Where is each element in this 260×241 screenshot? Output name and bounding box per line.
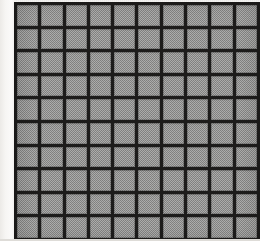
grid-cell	[236, 123, 257, 144]
grid-cell	[17, 52, 38, 73]
grid-cell	[236, 170, 257, 191]
grid-cell	[236, 194, 257, 215]
grid-cell	[114, 123, 135, 144]
grid-cell	[41, 5, 62, 26]
grid-cell	[17, 147, 38, 168]
grid-cell	[138, 29, 159, 50]
grid-cell	[138, 147, 159, 168]
grid-cell	[66, 5, 87, 26]
grid-cell	[66, 99, 87, 120]
grid-cell	[187, 29, 208, 50]
grid-cell	[211, 170, 232, 191]
grid-cell	[90, 147, 111, 168]
grid-cell	[90, 76, 111, 97]
grid-cell	[90, 99, 111, 120]
grid-cell	[41, 52, 62, 73]
grid-cell	[187, 99, 208, 120]
grid-cell	[114, 194, 135, 215]
grid-plate	[14, 2, 260, 241]
grid-cell	[236, 5, 257, 26]
grid-cell	[187, 147, 208, 168]
grid-cell	[163, 147, 184, 168]
grid-cell	[163, 5, 184, 26]
grid-cell	[66, 217, 87, 238]
grid-cell	[138, 5, 159, 26]
grid-cell	[187, 194, 208, 215]
grid-cell	[138, 52, 159, 73]
grid-cell	[66, 29, 87, 50]
grid-cell	[114, 170, 135, 191]
grid-cell	[41, 99, 62, 120]
scanned-grid-figure: Halftone grid pattern	[0, 0, 260, 241]
grid-cell	[211, 147, 232, 168]
grid-cell	[236, 52, 257, 73]
grid-cell	[138, 194, 159, 215]
grid-cell	[138, 123, 159, 144]
grid-cell	[138, 99, 159, 120]
grid-cell	[211, 123, 232, 144]
grid-cell	[163, 194, 184, 215]
grid-cell	[17, 123, 38, 144]
grid-cell	[41, 170, 62, 191]
page-left-margin	[0, 0, 15, 241]
grid-cell	[17, 29, 38, 50]
grid-cell	[163, 52, 184, 73]
grid-cell	[90, 29, 111, 50]
grid-cell	[17, 194, 38, 215]
grid-cell	[114, 52, 135, 73]
grid-cell	[41, 217, 62, 238]
grid-cell	[17, 217, 38, 238]
grid-cell	[66, 194, 87, 215]
grid-cell	[187, 52, 208, 73]
grid-cell	[163, 123, 184, 144]
grid-cell	[114, 76, 135, 97]
grid-cell	[236, 217, 257, 238]
grid-cell	[211, 194, 232, 215]
grid-cell	[114, 147, 135, 168]
grid-cell	[41, 123, 62, 144]
grid-cell	[17, 99, 38, 120]
grid-cell	[138, 170, 159, 191]
grid-cell	[41, 147, 62, 168]
grid-cell	[236, 76, 257, 97]
grid-cell	[41, 194, 62, 215]
grid-cell	[17, 170, 38, 191]
grid-cell	[138, 217, 159, 238]
grid-cell	[187, 170, 208, 191]
grid-cell	[114, 217, 135, 238]
grid-cell-container	[14, 2, 260, 241]
grid-cell	[90, 217, 111, 238]
grid-cell	[114, 29, 135, 50]
grid-cell	[163, 76, 184, 97]
grid-cell	[66, 76, 87, 97]
grid-cell	[163, 29, 184, 50]
grid-cell	[138, 76, 159, 97]
grid-cell	[236, 99, 257, 120]
grid-cell	[187, 76, 208, 97]
grid-cell	[17, 5, 38, 26]
grid-cell	[187, 123, 208, 144]
grid-cell	[41, 76, 62, 97]
grid-cell	[66, 147, 87, 168]
grid-cell	[90, 5, 111, 26]
grid-cell	[236, 147, 257, 168]
grid-cell	[211, 217, 232, 238]
grid-cell	[211, 29, 232, 50]
grid-cell	[17, 76, 38, 97]
grid-cell	[211, 99, 232, 120]
grid-cell	[66, 123, 87, 144]
grid-cell	[211, 52, 232, 73]
grid-cell	[211, 5, 232, 26]
grid-cell	[41, 29, 62, 50]
grid-cell	[90, 170, 111, 191]
grid-cell	[163, 170, 184, 191]
grid-cell	[163, 217, 184, 238]
grid-cell	[66, 170, 87, 191]
grid-cell	[211, 76, 232, 97]
grid-cell	[187, 5, 208, 26]
grid-cell	[90, 123, 111, 144]
grid-cell	[90, 194, 111, 215]
grid-cell	[163, 99, 184, 120]
grid-cell	[114, 99, 135, 120]
grid-cell	[114, 5, 135, 26]
